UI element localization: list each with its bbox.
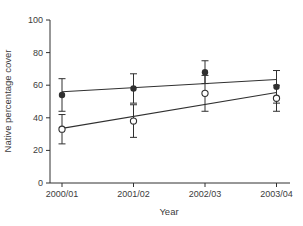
- data-point-filled-circle: [59, 92, 65, 98]
- x-tick-label: 2002/03: [189, 189, 222, 199]
- y-tick-label: 60: [33, 80, 43, 90]
- y-tick-label: 0: [38, 178, 43, 188]
- data-point-open-circle: [130, 118, 136, 124]
- x-axis-label: Year: [159, 206, 178, 217]
- y-tick-label: 40: [33, 113, 43, 123]
- data-point-open-circle: [202, 90, 208, 96]
- trend-line-filled-circle: [62, 79, 277, 91]
- generated-plot: 0204060801002000/012001/022002/032003/04: [28, 15, 293, 199]
- x-tick-label: 2001/02: [117, 189, 150, 199]
- data-point-open-circle: [59, 126, 65, 132]
- y-axis-label: Native percentage cover: [2, 50, 13, 153]
- chart-figure: 0204060801002000/012001/022002/032003/04…: [0, 0, 303, 226]
- data-point-open-circle: [273, 95, 279, 101]
- data-point-filled-circle: [273, 84, 279, 90]
- y-tick-label: 100: [28, 15, 43, 25]
- x-tick-label: 2000/01: [46, 189, 79, 199]
- x-tick-label: 2003/04: [260, 189, 293, 199]
- y-tick-label: 80: [33, 48, 43, 58]
- plot-svg: 0204060801002000/012001/022002/032003/04…: [0, 0, 303, 226]
- y-tick-label: 20: [33, 145, 43, 155]
- trend-line-open-circle: [62, 93, 277, 129]
- data-point-filled-circle: [130, 85, 136, 91]
- data-point-filled-circle: [202, 69, 208, 75]
